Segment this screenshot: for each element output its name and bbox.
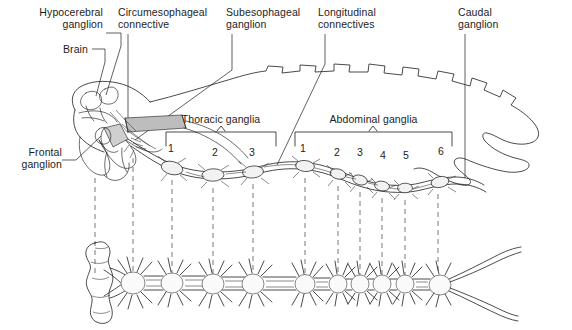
figure-insect-nervous-system: .s{fill:none;stroke:#1d1d1d;stroke-width… (0, 0, 572, 330)
thoracic-ganglion-number-3: 3 (249, 147, 255, 158)
cord-ganglion-8 (373, 275, 391, 293)
abdominal-ganglion-5 (397, 183, 412, 193)
projection-lines (95, 158, 438, 275)
nerve-cord-chain (118, 247, 521, 321)
abdominal-ganglion-number-1: 1 (300, 143, 306, 154)
bracket-abdominal-ganglia (295, 126, 452, 146)
leader-hypocerebral-ganglion (106, 33, 121, 95)
cord-ganglion-4 (242, 274, 264, 294)
cord-ganglion-10-caudal (429, 275, 451, 295)
abdominal-ganglion-number-5: 5 (403, 150, 409, 161)
cord-ganglion-2 (161, 273, 183, 293)
ventral-nerve-cord-in-situ (128, 139, 486, 200)
leader-brain (92, 49, 105, 96)
thoracic-ganglion-1 (160, 159, 184, 177)
diagram-canvas: .s{fill:none;stroke:#1d1d1d;stroke-width… (0, 0, 572, 330)
abdominal-ganglion-number-6: 6 (438, 146, 444, 157)
bracket-thoracic-ganglia (166, 126, 276, 146)
cord-ganglion-1 (121, 272, 145, 294)
isolated-nerve-cord (86, 242, 521, 324)
thoracic-ganglion-number-2: 2 (212, 147, 218, 158)
abdominal-ganglion-3 (351, 173, 368, 186)
thoracic-ganglion-2 (202, 168, 224, 181)
abdominal-ganglion-number-4: 4 (380, 150, 386, 161)
thoracic-ganglion-number-1: 1 (168, 143, 174, 154)
cord-ganglion-5 (295, 275, 315, 294)
cord-ganglion-9 (396, 275, 414, 293)
abdominal-ganglion-2 (329, 167, 347, 181)
cord-ganglion-7 (351, 275, 369, 293)
cord-ganglion-6 (329, 275, 347, 293)
abdominal-ganglion-number-3: 3 (357, 147, 363, 158)
abdominal-ganglion-1 (295, 160, 315, 173)
cord-ganglion-3 (202, 274, 224, 294)
abdominal-ganglion-number-2: 2 (334, 147, 340, 158)
